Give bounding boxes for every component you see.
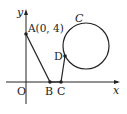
circle-c-label: C xyxy=(75,12,84,25)
point-b-label: B xyxy=(45,85,53,98)
x-axis-label: x xyxy=(113,84,120,97)
point-c-label: C xyxy=(57,85,65,98)
geometry-diagram: y x O A(0, 4) B C D C xyxy=(0,0,127,114)
y-axis-label: y xyxy=(16,6,24,19)
point-b xyxy=(48,80,52,84)
point-a-label: A(0, 4) xyxy=(27,22,64,34)
origin-label: O xyxy=(17,85,26,98)
circle-c xyxy=(63,23,109,69)
point-d xyxy=(63,54,67,58)
point-c xyxy=(59,80,63,84)
point-d-label: D xyxy=(54,50,63,63)
segment-ab xyxy=(26,34,50,82)
y-axis-arrow-icon xyxy=(24,9,28,15)
